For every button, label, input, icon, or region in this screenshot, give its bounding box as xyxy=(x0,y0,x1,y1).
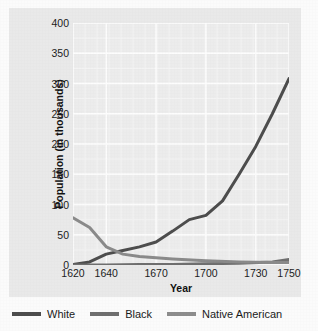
data-lines xyxy=(73,23,289,265)
chart-panel: Population (in thousands) 05010015020025… xyxy=(9,8,301,297)
legend-label: White xyxy=(47,308,75,320)
y-tick-label: 350 xyxy=(35,48,69,58)
y-tick-label: 200 xyxy=(35,139,69,149)
y-tick-label: 400 xyxy=(35,18,69,28)
legend-item[interactable]: White xyxy=(12,308,75,320)
series-line xyxy=(73,79,289,265)
y-tick-label: 100 xyxy=(35,200,69,210)
plot-area xyxy=(73,23,289,265)
y-axis-tick-labels: 050100150200250300350400 xyxy=(31,23,69,265)
y-tick-label: 250 xyxy=(35,109,69,119)
x-tick-label: 1750 xyxy=(277,267,300,279)
y-tick-label: 300 xyxy=(35,79,69,89)
legend-swatch-icon xyxy=(90,312,119,316)
y-tick-label: 50 xyxy=(35,230,69,240)
y-tick-label: 150 xyxy=(35,169,69,179)
chart-figure: Population (in thousands) 05010015020025… xyxy=(0,0,318,331)
legend-label: Native American xyxy=(202,308,282,320)
legend-swatch-icon xyxy=(12,312,41,316)
x-axis-tick-labels: 162016401670170017301750 xyxy=(73,267,289,281)
x-tick-label: 1700 xyxy=(194,267,217,279)
x-tick-label: 1640 xyxy=(95,267,118,279)
chart-legend: WhiteBlackNative American xyxy=(0,303,318,325)
legend-label: Black xyxy=(125,308,152,320)
x-axis-title: Year xyxy=(73,282,289,294)
legend-item[interactable]: Black xyxy=(90,308,152,320)
x-tick-label: 1670 xyxy=(144,267,167,279)
legend-swatch-icon xyxy=(167,312,196,316)
x-tick-label: 1730 xyxy=(244,267,267,279)
x-tick-label: 1620 xyxy=(61,267,84,279)
legend-item[interactable]: Native American xyxy=(167,308,282,320)
